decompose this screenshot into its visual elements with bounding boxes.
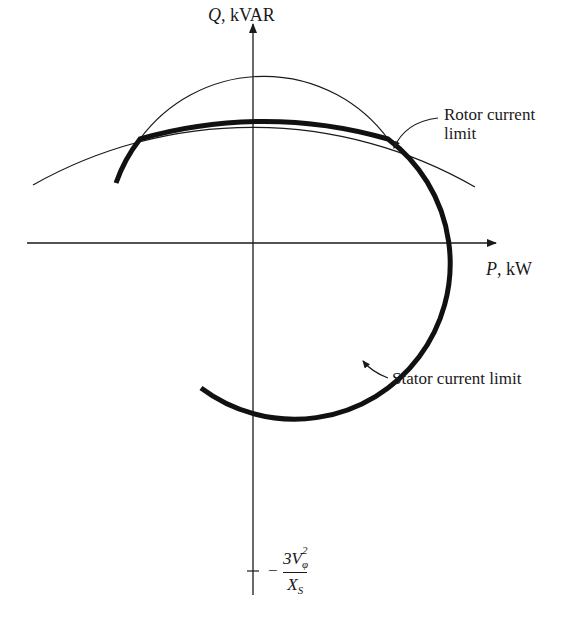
numerator-sub: φ	[302, 558, 308, 570]
p-axis-var: P	[486, 259, 497, 279]
rotor-limit-label: Rotor current limit	[444, 106, 535, 143]
fraction-denominator: XS	[283, 575, 307, 596]
rotor-limit-label-line2: limit	[444, 125, 535, 144]
rotor-leader-arrow	[394, 118, 438, 148]
q-tick-sign: −	[268, 562, 278, 581]
stator-limit-label: Stator current limit	[392, 370, 521, 389]
capability-diagram: Q, kVAR P, kW Rotor current limit Stator…	[0, 0, 584, 630]
stator-limit-text: Stator current limit	[392, 369, 521, 388]
denominator-sub: S	[298, 584, 304, 596]
diagram-graphics	[0, 0, 584, 630]
numerator-text: 3V	[283, 549, 302, 568]
fraction-bar	[283, 572, 307, 573]
rotor-limit-label-line1: Rotor current	[444, 106, 535, 125]
q-axis-var: Q	[208, 5, 221, 25]
fraction-numerator: 3Vφ2	[283, 547, 307, 570]
q-axis-label: Q, kVAR	[208, 6, 275, 26]
q-axis-unit: , kVAR	[221, 5, 275, 25]
numerator-sup: 2	[302, 544, 308, 556]
p-axis-unit: , kW	[497, 259, 532, 279]
p-axis-label: P, kW	[486, 260, 532, 280]
stator-leader-arrow	[363, 361, 388, 378]
minus-sign: −	[268, 561, 278, 580]
q-tick-fraction: 3Vφ2 XS	[283, 547, 307, 596]
denominator-text: X	[287, 575, 297, 594]
